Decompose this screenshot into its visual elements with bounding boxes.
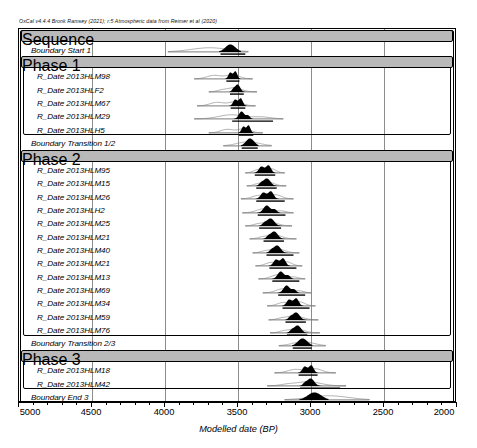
minor-tick-4200 bbox=[135, 402, 136, 405]
minor-tick-2700 bbox=[354, 402, 355, 405]
plot-row[interactable]: R_Date 2013HLM18 bbox=[19, 363, 455, 377]
prior-outline bbox=[197, 101, 255, 105]
plot-row[interactable]: R_Date 2013HLH5 bbox=[19, 123, 455, 137]
row-label: Boundary End 3 bbox=[31, 392, 88, 401]
row-label: R_Date 2013HLM69 bbox=[37, 286, 110, 295]
row-label: R_Date 2013HLF2 bbox=[37, 85, 104, 94]
minor-tick-3100 bbox=[295, 402, 296, 405]
row-label: R_Date 2013HLM34 bbox=[37, 299, 110, 308]
row-label: Boundary Transition 2/3 bbox=[31, 339, 115, 348]
band-header-phase-1[interactable]: Phase 1 bbox=[21, 56, 453, 68]
plot-row[interactable]: R_Date 2013HLM21 bbox=[19, 256, 455, 270]
minor-tick-2900 bbox=[325, 402, 326, 405]
plot-row[interactable]: R_Date 2013HLM25 bbox=[19, 216, 455, 230]
row-label: R_Date 2013HLH2 bbox=[37, 205, 105, 214]
minor-tick-4800 bbox=[47, 402, 48, 405]
minor-tick-3900 bbox=[179, 402, 180, 405]
plot-row[interactable]: R_Date 2013HLM69 bbox=[19, 283, 455, 297]
row-label: R_Date 2013HLM42 bbox=[37, 379, 110, 388]
plot-row[interactable]: Boundary Transition 2/3 bbox=[19, 336, 455, 350]
row-label: R_Date 2013HLM29 bbox=[37, 112, 110, 121]
prior-outline bbox=[209, 128, 263, 132]
minor-tick-3700 bbox=[208, 402, 209, 405]
plot-row[interactable]: R_Date 2013HLM21 bbox=[19, 229, 455, 243]
axis-tick-label-4500: 4500 bbox=[81, 407, 102, 417]
plot-row[interactable]: R_Date 2013HLM67 bbox=[19, 96, 455, 110]
row-label: R_Date 2013HLM59 bbox=[37, 312, 110, 321]
posterior-density bbox=[256, 178, 278, 186]
row-label: Boundary Transition 1/2 bbox=[31, 139, 115, 148]
posterior-density bbox=[285, 312, 307, 320]
row-label: R_Date 2013HLH5 bbox=[37, 125, 105, 134]
oxcal-plot-area: SequenceBoundary Start 1Phase 1R_Date 20… bbox=[18, 28, 456, 402]
minor-tick-4600 bbox=[76, 402, 77, 405]
minor-tick-2400 bbox=[398, 402, 399, 405]
minor-tick-4300 bbox=[120, 402, 121, 405]
row-label: R_Date 2013HLM67 bbox=[37, 99, 110, 108]
row-label: R_Date 2013HLM15 bbox=[37, 179, 110, 188]
plot-row[interactable]: Boundary Transition 1/2 bbox=[19, 136, 455, 150]
plot-row[interactable]: R_Date 2013HLM15 bbox=[19, 176, 455, 190]
axis-tick-label-2000: 2000 bbox=[434, 407, 455, 417]
minor-tick-3300 bbox=[266, 402, 267, 405]
plot-row[interactable]: R_Date 2013HLM42 bbox=[19, 376, 455, 390]
minor-tick-4700 bbox=[62, 402, 63, 405]
minor-tick-4900 bbox=[33, 402, 34, 405]
plot-row[interactable]: R_Date 2013HLM40 bbox=[19, 243, 455, 257]
minor-tick-2100 bbox=[441, 402, 442, 405]
minor-tick-3400 bbox=[252, 402, 253, 405]
axis-tick-label-3500: 3500 bbox=[227, 407, 248, 417]
plot-row[interactable]: R_Date 2013HLM26 bbox=[19, 189, 455, 203]
minor-tick-3800 bbox=[193, 402, 194, 405]
prior-outline bbox=[194, 75, 252, 79]
x-axis-title: Modelled date (BP) bbox=[0, 424, 477, 434]
plot-inner: SequenceBoundary Start 1Phase 1R_Date 20… bbox=[19, 29, 455, 401]
plot-row[interactable]: R_Date 2013HLM95 bbox=[19, 163, 455, 177]
row-label: R_Date 2013HLM95 bbox=[37, 165, 110, 174]
major-tick-2000 bbox=[456, 402, 457, 407]
axis-tick-label-5000: 5000 bbox=[20, 407, 41, 417]
plot-row[interactable]: R_Date 2013HLM29 bbox=[19, 109, 455, 123]
axis-tick-label-2500: 2500 bbox=[373, 407, 394, 417]
minor-tick-4400 bbox=[106, 402, 107, 405]
plot-row[interactable]: R_Date 2013HLM59 bbox=[19, 310, 455, 324]
plot-row[interactable]: R_Date 2013HLM98 bbox=[19, 69, 455, 83]
row-label: R_Date 2013HLM98 bbox=[37, 72, 110, 81]
axis-tick-label-3000: 3000 bbox=[300, 407, 321, 417]
band-header-phase-2[interactable]: Phase 2 bbox=[21, 150, 453, 162]
minor-tick-2300 bbox=[412, 402, 413, 405]
row-label: R_Date 2013HLM21 bbox=[37, 232, 110, 241]
posterior-density bbox=[298, 365, 318, 373]
row-label: R_Date 2013HLM25 bbox=[37, 219, 110, 228]
minor-tick-2800 bbox=[339, 402, 340, 405]
row-label: R_Date 2013HLM21 bbox=[37, 259, 110, 268]
posterior-density bbox=[258, 218, 281, 226]
plot-row[interactable]: Boundary Start 1 bbox=[19, 42, 455, 56]
band-header-phase-3[interactable]: Phase 3 bbox=[21, 350, 453, 362]
row-label: R_Date 2013HLM18 bbox=[37, 366, 110, 375]
plot-row[interactable]: R_Date 2013HLF2 bbox=[19, 82, 455, 96]
minor-tick-3600 bbox=[222, 402, 223, 405]
minor-tick-4100 bbox=[149, 402, 150, 405]
posterior-density bbox=[225, 71, 241, 79]
posterior-density bbox=[286, 325, 308, 333]
oxcal-credit-line: OxCal v4.4.4 Bronk Ramsey (2021); r:5 At… bbox=[19, 18, 217, 24]
plot-row[interactable]: R_Date 2013HLH2 bbox=[19, 203, 455, 217]
row-label: R_Date 2013HLM40 bbox=[37, 245, 110, 254]
row-label: R_Date 2013HLM26 bbox=[37, 192, 110, 201]
posterior-density bbox=[266, 245, 288, 253]
band-header-sequence[interactable]: Sequence bbox=[21, 30, 453, 42]
minor-tick-2200 bbox=[427, 402, 428, 405]
plot-row[interactable]: R_Date 2013HLM34 bbox=[19, 296, 455, 310]
minor-tick-2600 bbox=[368, 402, 369, 405]
minor-tick-3200 bbox=[281, 402, 282, 405]
axis-tick-label-4000: 4000 bbox=[154, 407, 175, 417]
row-label: R_Date 2013HLM13 bbox=[37, 272, 110, 281]
posterior-density bbox=[263, 232, 285, 240]
x-axis: 5000450040003500300025002000 bbox=[18, 402, 456, 418]
posterior-density bbox=[219, 45, 241, 52]
plot-row[interactable]: R_Date 2013HLM13 bbox=[19, 269, 455, 283]
row-list: SequenceBoundary Start 1Phase 1R_Date 20… bbox=[19, 29, 455, 401]
plot-row[interactable]: R_Date 2013HLM76 bbox=[19, 323, 455, 337]
row-label: R_Date 2013HLM76 bbox=[37, 326, 110, 335]
